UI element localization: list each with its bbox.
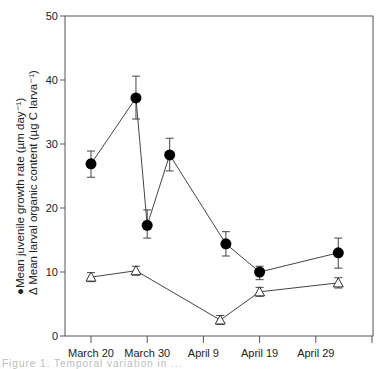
y-axis-label-organic: Δ Mean larval organic content (µg C larv… bbox=[27, 70, 39, 295]
triangle-marker bbox=[333, 278, 343, 287]
series-organic-content bbox=[86, 266, 343, 325]
series-growth-rate bbox=[86, 76, 344, 280]
y-tick-label: 10 bbox=[46, 266, 58, 278]
circle-marker bbox=[142, 220, 153, 231]
circle-marker bbox=[86, 158, 97, 169]
x-axis-ticks: March 20March 30April 9April 19April 29 bbox=[68, 336, 372, 359]
data-series bbox=[86, 76, 344, 324]
x-tick-label: April 29 bbox=[297, 347, 334, 359]
y-tick-label: 50 bbox=[46, 10, 58, 22]
y-tick-label: 40 bbox=[46, 74, 58, 86]
x-tick-label: April 9 bbox=[188, 347, 219, 359]
circle-marker bbox=[164, 149, 175, 160]
plot-border bbox=[65, 16, 373, 336]
y-tick-label: 20 bbox=[46, 202, 58, 214]
series-line bbox=[91, 271, 338, 320]
circle-marker bbox=[130, 92, 141, 103]
circle-marker bbox=[254, 267, 265, 278]
line-chart: 01020304050 March 20March 30April 9April… bbox=[0, 0, 384, 369]
series-line bbox=[91, 98, 338, 272]
circle-marker bbox=[333, 247, 344, 258]
figure-caption: Figure 1. Temporal variation in ... bbox=[2, 358, 182, 369]
x-tick-label: April 19 bbox=[241, 347, 278, 359]
y-tick-label: 0 bbox=[52, 330, 58, 342]
plot-frame bbox=[65, 16, 373, 336]
triangle-marker bbox=[215, 315, 225, 324]
y-axis-label: ●Mean juvenile growth rate (µm day⁻¹) Δ … bbox=[14, 70, 39, 295]
triangle-marker bbox=[131, 266, 141, 275]
circle-marker bbox=[220, 238, 231, 249]
y-axis-ticks: 01020304050 bbox=[46, 10, 65, 342]
y-tick-label: 30 bbox=[46, 138, 58, 150]
y-axis-label-growth: ●Mean juvenile growth rate (µm day⁻¹) bbox=[14, 98, 26, 295]
